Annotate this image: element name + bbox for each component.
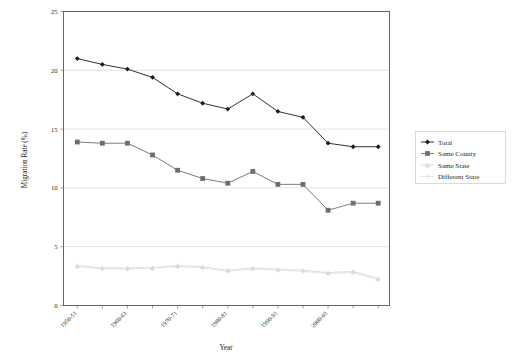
data-point-marker [200,176,205,181]
y-tick-label: 25 [51,8,58,15]
y-tick-label: 20 [51,67,58,74]
data-point-marker [175,168,180,173]
data-point-marker [250,169,255,174]
data-point-marker [100,141,105,146]
legend-label: Same State [438,162,469,170]
data-point-marker [425,151,430,156]
legend-label: Different State [438,173,479,181]
data-point-marker [125,141,130,146]
data-point-marker [225,181,230,186]
migration-rate-line-chart: 0510152025 1950-511960-611970-711980-811… [0,0,521,360]
x-axis-title: Year [219,344,233,352]
y-tick-label: 10 [51,184,58,191]
data-point-marker [376,201,381,206]
chart-legend: TotalSame CountySame StateDifferent Stat… [416,132,506,184]
y-axis-title: Migration Rate (%) [21,131,29,188]
legend-label: Same County [438,150,476,158]
data-point-marker [326,208,331,213]
data-point-marker [75,140,80,145]
data-point-marker [150,153,155,158]
data-point-marker [276,182,281,187]
y-tick-label: 15 [51,126,58,133]
legend-label: Total [438,139,452,147]
data-point-marker [301,182,306,187]
data-point-marker [351,201,356,206]
